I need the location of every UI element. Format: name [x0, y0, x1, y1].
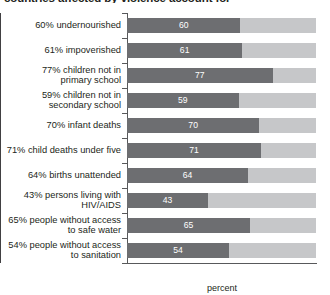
- bar-value-label: 59: [127, 93, 239, 108]
- bar-value-label: 61: [127, 43, 242, 58]
- reference-line-50: [0, 13, 1, 263]
- category-label: 43% persons living withHIV/AIDS: [0, 190, 121, 211]
- bar-row: 71: [127, 143, 316, 158]
- bar-row: 70: [127, 118, 316, 133]
- bar-value-label: 64: [127, 168, 248, 183]
- category-label: 61% impoverished: [0, 45, 121, 56]
- x-axis-title: percent: [127, 283, 317, 293]
- bar-value-label: 71: [127, 143, 261, 158]
- bar-row: 60: [127, 18, 316, 33]
- category-label-line: to safe water: [0, 225, 121, 236]
- bar-row: 77: [127, 68, 316, 83]
- category-label: 59% children not insecondary school: [0, 90, 121, 111]
- bar-value-label: 70: [127, 118, 259, 133]
- bar-row: 54: [127, 243, 316, 258]
- bar-row: 64: [127, 168, 316, 183]
- y-axis-tick: [122, 88, 127, 89]
- bar-value-label: 54: [127, 243, 229, 258]
- category-label: 65% people without accessto safe water: [0, 215, 121, 236]
- category-label-line: 61% impoverished: [0, 45, 121, 56]
- y-axis-tick: [122, 13, 127, 14]
- y-axis-tick: [122, 138, 127, 139]
- category-label: 71% child deaths under five: [0, 145, 121, 156]
- y-axis-tick: [122, 238, 127, 239]
- category-label: 70% infant deaths: [0, 120, 121, 131]
- category-label-column: 60% undernourished61% impoverished77% ch…: [0, 13, 124, 263]
- chart-plot-area: 60% undernourished61% impoverished77% ch…: [0, 13, 330, 295]
- category-label-line: 59% children not in: [0, 90, 121, 101]
- bar-row: 59: [127, 93, 316, 108]
- category-label-line: 71% child deaths under five: [0, 145, 121, 156]
- chart-title: countries affected by violence account f…: [4, 0, 326, 3]
- bar-value-label: 65: [127, 218, 250, 233]
- y-axis-tick: [122, 263, 127, 264]
- category-label-line: 60% undernourished: [0, 20, 121, 31]
- y-axis-tick: [122, 213, 127, 214]
- category-label: 64% births unattended: [0, 170, 121, 181]
- y-axis-tick: [122, 38, 127, 39]
- category-label: 77% children not inprimary school: [0, 65, 121, 86]
- category-label-line: 43% persons living with: [0, 190, 121, 201]
- bar-value-label: 43: [127, 193, 208, 208]
- bar-row: 65: [127, 218, 316, 233]
- category-label-line: 70% infant deaths: [0, 120, 121, 131]
- bar-value-label: 60: [127, 18, 240, 33]
- bar-series: 60617759707164436554: [127, 13, 316, 263]
- category-label: 54% people without accessto sanitation: [0, 240, 121, 261]
- bar-row: 61: [127, 43, 316, 58]
- category-label: 60% undernourished: [0, 20, 121, 31]
- y-axis-tick: [122, 163, 127, 164]
- y-axis-tick: [122, 188, 127, 189]
- category-label-line: secondary school: [0, 100, 121, 111]
- bar-row: 43: [127, 193, 316, 208]
- y-axis-tick: [122, 113, 127, 114]
- category-label-line: to sanitation: [0, 250, 121, 261]
- category-label-line: 64% births unattended: [0, 170, 121, 181]
- category-label-line: 65% people without access: [0, 215, 121, 226]
- y-axis-tick: [122, 63, 127, 64]
- x-axis-line: [127, 263, 317, 264]
- category-label-line: HIV/AIDS: [0, 200, 121, 211]
- category-label-line: primary school: [0, 75, 121, 86]
- bar-value-label: 77: [127, 68, 273, 83]
- category-label-line: 54% people without access: [0, 240, 121, 251]
- category-label-line: 77% children not in: [0, 65, 121, 76]
